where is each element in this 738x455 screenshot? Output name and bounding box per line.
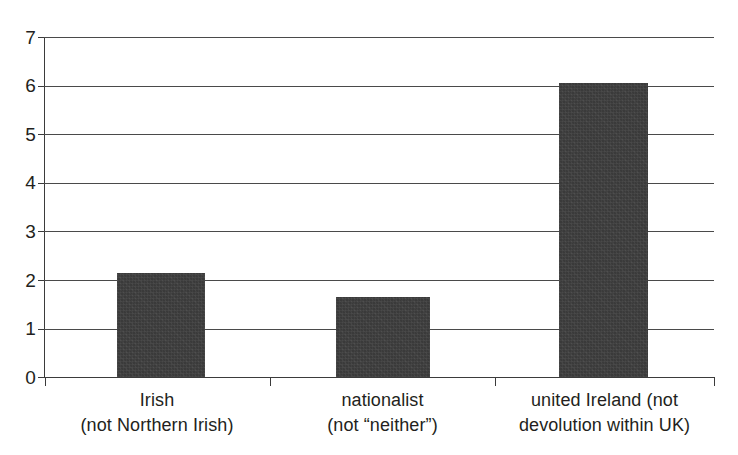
category-label-line-1: Irish xyxy=(44,388,270,413)
bar-chart: 7 6 5 4 3 2 1 0 xyxy=(0,0,738,455)
x-tick-mark-3 xyxy=(714,377,715,386)
category-label-line-2: (not “neither”) xyxy=(270,413,495,438)
y-tick-label-text: 6 xyxy=(8,76,36,95)
plot-area xyxy=(44,37,714,377)
category-label-line-1: nationalist xyxy=(270,388,495,413)
y-axis-tick-label-0: 0 xyxy=(0,368,36,387)
y-axis-tick-label-7: 7 xyxy=(0,28,36,47)
y-tick-label-text: 1 xyxy=(8,319,36,338)
y-tick-label-text: 5 xyxy=(8,125,36,144)
y-tick-label-text: 4 xyxy=(8,173,36,192)
gridline-0-baseline xyxy=(44,377,714,378)
x-tick-mark-1 xyxy=(270,377,271,386)
bar-irish xyxy=(117,273,205,377)
y-axis-tick-label-2: 2 xyxy=(0,271,36,290)
y-tick-label-text: 2 xyxy=(8,271,36,290)
category-label-line-1: united Ireland (not xyxy=(495,388,714,413)
bar-united-ireland xyxy=(559,83,648,377)
y-axis-tick-label-1: 1 xyxy=(0,319,36,338)
y-tick-label-text: 7 xyxy=(8,28,36,47)
x-tick-mark-0 xyxy=(45,377,46,386)
gridline-7 xyxy=(44,37,714,38)
y-axis-tick-label-6: 6 xyxy=(0,76,36,95)
y-axis-tick-label-4: 4 xyxy=(0,173,36,192)
y-axis-tick-label-5: 5 xyxy=(0,125,36,144)
category-label-irish: Irish (not Northern Irish) xyxy=(44,388,270,438)
category-label-line-2: (not Northern Irish) xyxy=(44,413,270,438)
category-label-united-ireland: united Ireland (not devolution within UK… xyxy=(495,388,714,438)
y-tick-label-text: 3 xyxy=(8,222,36,241)
bar-nationalist xyxy=(336,297,430,377)
y-axis-tick-label-3: 3 xyxy=(0,222,36,241)
x-tick-mark-2 xyxy=(495,377,496,386)
y-tick-label-text: 0 xyxy=(8,368,36,387)
category-label-line-2: devolution within UK) xyxy=(495,413,714,438)
category-label-nationalist: nationalist (not “neither”) xyxy=(270,388,495,438)
